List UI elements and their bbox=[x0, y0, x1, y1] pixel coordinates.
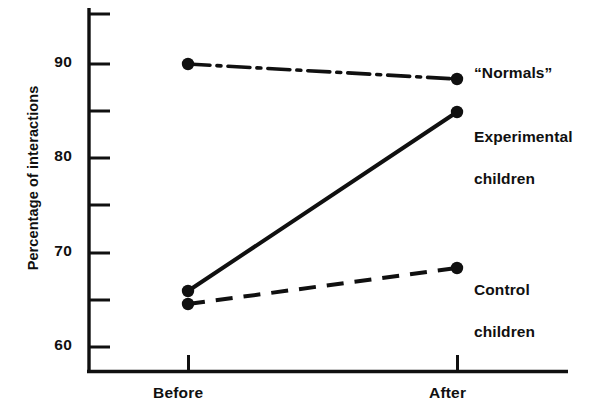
series-label-experimental-children: Experimental children bbox=[474, 105, 573, 189]
y-tick-label-60: 60 bbox=[28, 336, 72, 354]
series-label-control-children: Control children bbox=[474, 258, 535, 342]
datapoint-control-after bbox=[451, 262, 463, 274]
series-normals bbox=[182, 58, 463, 85]
datapoint-control-before bbox=[182, 298, 194, 310]
chart-figure: Percentage of interactions 90 80 70 60 B… bbox=[0, 0, 602, 419]
y-axis-title: Percentage of interactions bbox=[25, 53, 41, 303]
series-label-control-line2: children bbox=[474, 323, 535, 340]
y-tick-label-90: 90 bbox=[28, 53, 72, 71]
y-tick-label-80: 80 bbox=[28, 147, 72, 165]
series-experimental-children bbox=[182, 106, 463, 297]
datapoint-experimental-before bbox=[182, 285, 194, 297]
series-label-experimental-line2: children bbox=[474, 170, 535, 187]
series-control-line bbox=[188, 268, 457, 304]
series-label-normals: “Normals” bbox=[474, 62, 552, 83]
x-tick-label-before: Before bbox=[153, 384, 203, 402]
x-axis-ticks bbox=[189, 355, 458, 371]
datapoint-normals-before bbox=[182, 58, 194, 70]
series-label-experimental-line1: Experimental bbox=[474, 128, 573, 145]
y-tick-label-70: 70 bbox=[28, 242, 72, 260]
series-label-control-line1: Control bbox=[474, 281, 530, 298]
series-normals-line bbox=[188, 64, 457, 79]
datapoint-normals-after bbox=[451, 73, 463, 85]
series-experimental-line bbox=[188, 112, 457, 291]
datapoint-experimental-after bbox=[451, 106, 463, 118]
y-axis-ticks bbox=[89, 14, 110, 347]
x-tick-label-after: After bbox=[429, 384, 466, 402]
